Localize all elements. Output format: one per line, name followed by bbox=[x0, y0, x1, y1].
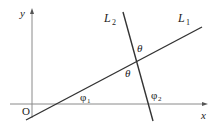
x-axis bbox=[10, 102, 208, 106]
y-axis-label: y bbox=[19, 7, 25, 19]
diagram-canvas: y x O L 1 L 2 θ θ φ 1 φ 2 bbox=[0, 0, 220, 124]
L1-label-main: L bbox=[177, 11, 185, 25]
L2-label-main: L bbox=[103, 11, 111, 25]
L1-label-sub: 1 bbox=[186, 18, 190, 27]
x-axis-label: x bbox=[200, 109, 206, 121]
phi1-label-main: φ bbox=[80, 91, 86, 103]
phi2-label-sub: 2 bbox=[158, 95, 162, 103]
L2-label: L 2 bbox=[103, 11, 116, 27]
L2-label-sub: 2 bbox=[112, 18, 116, 27]
y-axis-arrow-icon bbox=[30, 8, 34, 14]
x-axis-arrow-icon bbox=[202, 102, 208, 106]
phi1-label-sub: 1 bbox=[87, 97, 91, 105]
theta-top-label: θ bbox=[137, 42, 143, 54]
phi1-label: φ 1 bbox=[80, 91, 91, 105]
origin-label: O bbox=[22, 105, 30, 117]
theta-bottom-label: θ bbox=[125, 67, 131, 79]
diagram-svg: y x O L 1 L 2 θ θ φ 1 φ 2 bbox=[0, 0, 220, 124]
phi2-label-main: φ bbox=[151, 89, 157, 101]
phi2-label: φ 2 bbox=[151, 89, 162, 103]
line-L1 bbox=[26, 27, 202, 120]
y-axis bbox=[30, 8, 34, 118]
L1-label: L 1 bbox=[177, 11, 190, 27]
